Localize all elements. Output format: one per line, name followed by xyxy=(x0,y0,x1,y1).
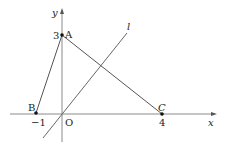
y-axis-arrow-icon xyxy=(60,8,64,14)
tick-label-neg1: −1 xyxy=(31,117,46,128)
x-axis-arrow-icon xyxy=(211,112,217,116)
point-a-label: A xyxy=(64,29,73,40)
point-a xyxy=(60,33,64,37)
segment-ab xyxy=(36,35,62,113)
coordinate-diagram: y 3 A B −1 O C 4 x l xyxy=(0,0,228,145)
point-c-label: C xyxy=(158,102,166,113)
x-axis-label: x xyxy=(208,117,214,128)
point-b-label: B xyxy=(28,102,35,113)
segment-ac xyxy=(62,35,162,114)
line-l-label: l xyxy=(127,21,130,32)
tick-label-4: 4 xyxy=(159,117,165,128)
tick-label-3: 3 xyxy=(53,30,59,41)
origin-label: O xyxy=(65,117,73,128)
y-axis-label: y xyxy=(51,7,58,18)
line-l xyxy=(43,33,127,138)
